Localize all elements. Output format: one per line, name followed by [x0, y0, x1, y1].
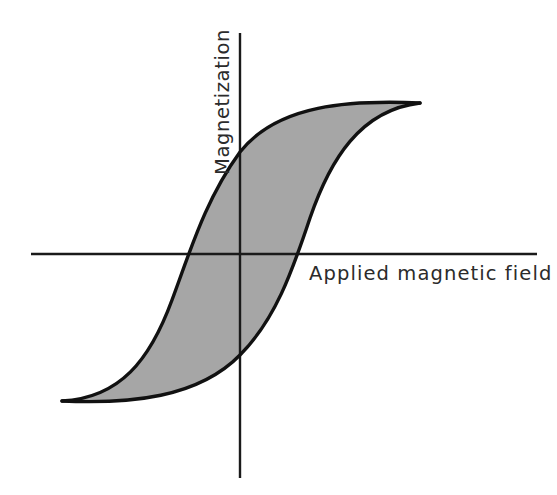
hysteresis-diagram: Magnetization Applied magnetic field	[0, 0, 557, 495]
hysteresis-plot-svg: Magnetization Applied magnetic field	[0, 0, 557, 495]
x-axis-label: Applied magnetic field	[309, 262, 552, 285]
y-axis-label: Magnetization	[211, 29, 234, 175]
